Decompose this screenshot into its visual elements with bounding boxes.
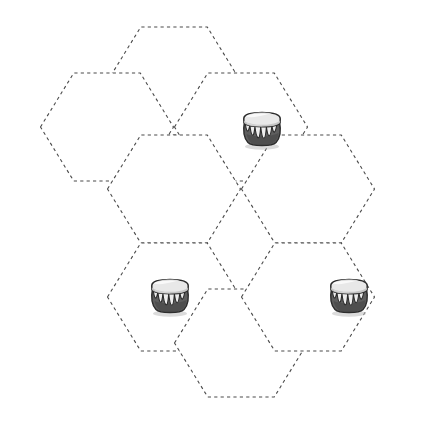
honey-pot-icon[interactable] xyxy=(322,268,376,322)
honey-pot-icon[interactable] xyxy=(143,268,197,322)
hex-game-board[interactable] xyxy=(0,0,434,430)
honey-pot-icon[interactable] xyxy=(235,101,289,155)
hex-cells-group xyxy=(41,27,375,397)
hex-grid-layer xyxy=(0,0,434,430)
